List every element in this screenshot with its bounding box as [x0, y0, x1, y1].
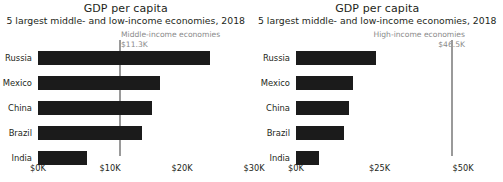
left-chart-titles: GDP per capita 5 largest middle- and low…: [0, 2, 252, 27]
left-x-axis: $0K$10K$20K$30K: [0, 163, 252, 177]
bar-row: Russia: [0, 51, 252, 65]
left-reference-label: Middle-income economies: [121, 30, 220, 40]
left-chart-subtitle: 5 largest middle- and low-income economi…: [0, 15, 252, 27]
chart-panel-left: GDP per capita 5 largest middle- and low…: [0, 0, 252, 182]
bar-category-label: India: [269, 153, 290, 163]
bar-row: Brazil: [252, 126, 503, 140]
bar-row: China: [0, 101, 252, 115]
left-chart-title: GDP per capita: [0, 2, 252, 15]
bar-brazil: [296, 126, 344, 140]
bar-category-label: Russia: [5, 53, 32, 63]
bar-russia: [38, 51, 210, 65]
x-axis-tick-label: $50K: [453, 163, 474, 173]
bar-category-label: China: [8, 103, 32, 113]
bar-category-label: India: [11, 153, 32, 163]
left-reference-annotation: Middle-income economies $11.3K: [121, 30, 220, 49]
bar-brazil: [38, 126, 142, 140]
bar-row: Brazil: [0, 126, 252, 140]
left-bar-group: RussiaMexicoChinaBrazilIndia: [0, 48, 252, 156]
x-axis-tick-label: $0K: [288, 163, 304, 173]
x-axis-tick-label: $25K: [369, 163, 390, 173]
x-axis-tick-label: $10K: [100, 163, 121, 173]
x-axis-tick-label: $0K: [30, 163, 46, 173]
bar-row: China: [252, 101, 503, 115]
right-reference-label: High-income economies: [373, 30, 465, 40]
bar-row: Russia: [252, 51, 503, 65]
bar-category-label: Mexico: [261, 78, 290, 88]
bar-category-label: Brazil: [9, 128, 32, 138]
right-bar-group: RussiaMexicoChinaBrazilIndia: [252, 48, 503, 156]
right-chart-subtitle: 5 largest middle- and low-income economi…: [252, 15, 503, 27]
bar-china: [296, 101, 349, 115]
bar-mexico: [296, 76, 353, 90]
bar-row: Mexico: [0, 76, 252, 90]
right-x-axis: $0K$25K$50K: [252, 163, 503, 177]
bar-category-label: Mexico: [3, 78, 32, 88]
bar-category-label: Brazil: [267, 128, 290, 138]
gdp-per-capita-figure: GDP per capita 5 largest middle- and low…: [0, 0, 503, 182]
right-chart-title: GDP per capita: [252, 2, 503, 15]
left-plot-area: RussiaMexicoChinaBrazilIndia: [0, 48, 252, 156]
bar-category-label: China: [266, 103, 290, 113]
bar-russia: [296, 51, 376, 65]
bar-china: [38, 101, 152, 115]
bar-category-label: Russia: [263, 53, 290, 63]
bar-mexico: [38, 76, 160, 90]
right-chart-titles: GDP per capita 5 largest middle- and low…: [252, 2, 503, 27]
x-axis-tick-label: $20K: [172, 163, 193, 173]
right-plot-area: RussiaMexicoChinaBrazilIndia: [252, 48, 503, 156]
chart-panel-right: GDP per capita 5 largest middle- and low…: [252, 0, 503, 182]
bar-row: Mexico: [252, 76, 503, 90]
